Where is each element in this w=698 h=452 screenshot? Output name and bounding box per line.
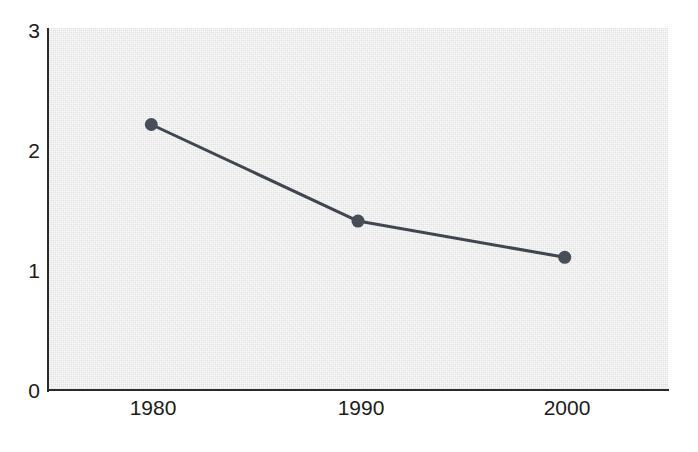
y-tick-label-1: 1 [0, 260, 40, 281]
plot-area [48, 28, 668, 390]
y-tick-label-2: 2 [0, 140, 40, 161]
x-axis-line [47, 389, 669, 391]
x-tick-label-1990: 1990 [316, 397, 406, 418]
y-tick-label-0: 0 [0, 380, 40, 401]
y-tick-label-3: 3 [0, 20, 40, 41]
line-chart-figure: 3 2 1 0 1980 1990 2000 [0, 0, 698, 452]
y-axis-tick-labels: 3 2 1 0 [0, 0, 40, 452]
x-tick-label-1980: 1980 [108, 397, 198, 418]
x-tick-label-2000: 2000 [522, 397, 612, 418]
y-axis-line [47, 28, 49, 392]
